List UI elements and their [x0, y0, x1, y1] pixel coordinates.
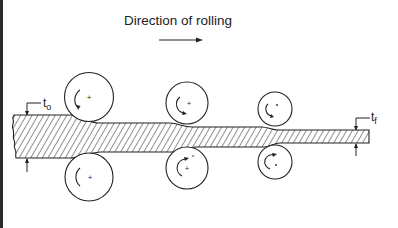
rolling-schematic: + + + +: [0, 0, 398, 228]
svg-text:+: +: [88, 173, 93, 182]
initial-thickness-label: to: [43, 96, 51, 112]
rolling-diagram: Direction of rolling + +: [0, 0, 398, 228]
direction-arrow-icon: [159, 38, 203, 43]
top-roll-3: [258, 92, 292, 126]
svg-text:+: +: [187, 100, 191, 107]
svg-text:+: +: [87, 93, 92, 102]
final-thickness-label: tf: [371, 110, 377, 126]
bottom-roll-3: [258, 145, 292, 179]
svg-text:+: +: [185, 165, 189, 172]
